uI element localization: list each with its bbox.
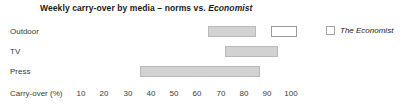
legend-label-economist: The Economist: [340, 26, 393, 35]
x-tick-40: 40: [147, 89, 156, 98]
plot-area: Outdoor TV Press Carry-over (%) 10 20 30…: [0, 0, 413, 110]
chart-container: Weekly carry-over by media – norms vs. E…: [0, 0, 413, 110]
legend-swatch-economist-icon: [326, 26, 335, 35]
bar-press-norm[interactable]: [140, 66, 260, 77]
legend: The Economist: [326, 26, 393, 35]
x-tick-60: 60: [193, 89, 202, 98]
x-tick-10: 10: [77, 89, 86, 98]
x-tick-20: 20: [100, 89, 109, 98]
x-tick-30: 30: [124, 89, 133, 98]
bar-outdoor-norm[interactable]: [208, 26, 256, 37]
x-axis-title: Carry-over (%): [10, 89, 62, 98]
category-label-press: Press: [10, 67, 30, 76]
x-tick-90: 90: [263, 89, 272, 98]
bar-outdoor-economist[interactable]: [271, 26, 297, 37]
x-tick-50: 50: [170, 89, 179, 98]
bar-tv-norm[interactable]: [225, 46, 278, 57]
category-label-outdoor: Outdoor: [10, 27, 39, 36]
category-label-tv: TV: [10, 47, 20, 56]
x-tick-70: 70: [217, 89, 226, 98]
x-tick-100: 100: [284, 89, 297, 98]
x-tick-80: 80: [240, 89, 249, 98]
